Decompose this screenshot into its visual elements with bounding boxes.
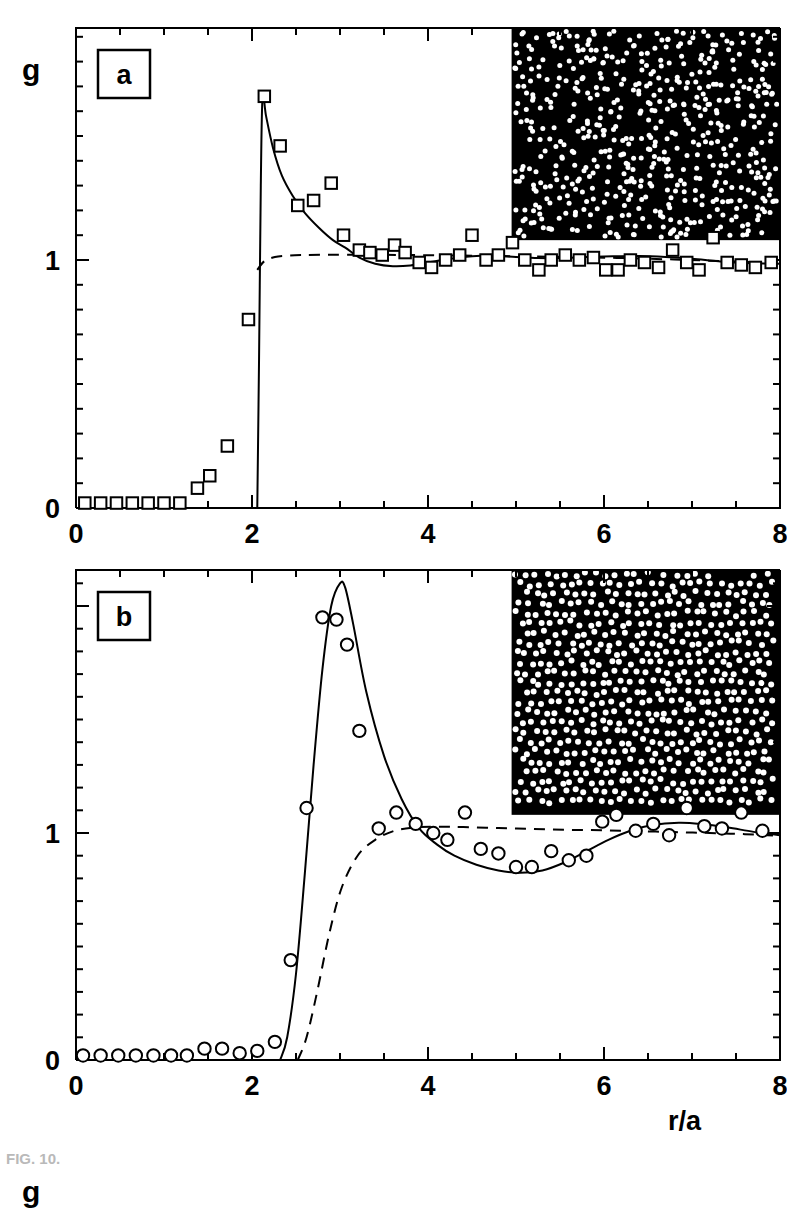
- plot-area-b: 0246801b: [0, 552, 787, 1165]
- data-point-circle: [756, 825, 768, 837]
- data-point-circle: [647, 818, 659, 830]
- data-point-circle: [681, 802, 693, 814]
- tick-labels-a: 0246801: [45, 246, 787, 549]
- data-point-circle: [596, 815, 608, 827]
- y-tick-label: 1: [45, 819, 60, 849]
- data-point-circle: [77, 1049, 89, 1061]
- data-point-square: [721, 257, 733, 269]
- data-point-square: [667, 244, 679, 256]
- data-point-circle: [198, 1042, 210, 1054]
- x-tick-label: 2: [244, 1071, 259, 1101]
- data-point-square: [545, 254, 557, 266]
- data-point-square: [325, 177, 337, 189]
- data-point-circle: [735, 806, 747, 818]
- data-point-square: [681, 257, 693, 269]
- data-point-circle: [165, 1049, 177, 1061]
- data-point-circle: [390, 806, 402, 818]
- data-point-circle: [510, 861, 522, 873]
- panel-tag-letter: a: [116, 60, 132, 90]
- y-tick-label: 0: [45, 1046, 60, 1076]
- data-point-square: [493, 249, 505, 260]
- x-tick-label: 0: [68, 1071, 83, 1101]
- data-point-square: [653, 262, 665, 274]
- data-point-square: [480, 254, 492, 266]
- data-point-circle: [181, 1049, 193, 1061]
- data-point-circle: [251, 1045, 263, 1057]
- data-point-square: [192, 482, 204, 494]
- data-point-circle: [269, 1036, 281, 1048]
- data-point-circle: [316, 611, 328, 623]
- data-point-circle: [563, 854, 575, 866]
- data-point-square: [292, 200, 304, 212]
- data-point-circle: [716, 822, 728, 834]
- data-point-square: [588, 252, 600, 264]
- data-point-circle: [441, 834, 453, 846]
- data-point-square: [338, 229, 350, 241]
- data-point-square: [533, 264, 545, 276]
- data-point-circle: [373, 822, 385, 834]
- data-point-square: [259, 91, 271, 103]
- x-tick-label: 0: [68, 519, 83, 549]
- data-point-square: [574, 254, 586, 266]
- data-point-square: [79, 497, 91, 509]
- data-point-circle: [285, 954, 297, 966]
- data-point-square: [376, 249, 388, 260]
- reference-curve-b: [298, 827, 780, 1060]
- data-point-square: [274, 140, 286, 152]
- data-point-square: [454, 249, 466, 260]
- data-point-square: [142, 497, 154, 509]
- panel-tag-a: a: [98, 50, 150, 98]
- data-point-circle: [663, 829, 675, 841]
- data-point-square: [158, 497, 170, 509]
- data-point-square: [707, 232, 719, 244]
- inset-particle-field-a: [512, 28, 780, 240]
- data-point-circle: [330, 613, 342, 625]
- panel-a: g 0246801a: [0, 0, 787, 560]
- data-point-square: [625, 254, 637, 266]
- data-point-square: [693, 264, 705, 276]
- data-point-circle: [629, 825, 641, 837]
- data-point-circle: [94, 1049, 106, 1061]
- data-point-circle: [409, 818, 421, 830]
- x-tick-label: 4: [420, 1071, 435, 1101]
- x-tick-label: 4: [420, 519, 435, 549]
- data-point-square: [765, 257, 777, 269]
- data-point-square: [95, 497, 107, 509]
- data-point-circle: [427, 827, 439, 839]
- data-point-square: [127, 497, 139, 509]
- data-point-square: [243, 314, 255, 326]
- data-point-square: [560, 249, 572, 260]
- y-tick-label: 1: [45, 246, 60, 276]
- panel-tag-b: b: [98, 592, 150, 640]
- data-point-circle: [698, 820, 710, 832]
- data-point-square: [204, 470, 216, 482]
- data-point-square: [111, 497, 123, 509]
- data-point-circle: [610, 809, 622, 821]
- data-point-circle: [459, 806, 471, 818]
- data-point-square: [612, 264, 624, 276]
- y-axis-label-b: g: [22, 1177, 40, 1207]
- data-point-circle: [130, 1049, 142, 1061]
- data-point-circle: [526, 861, 538, 873]
- panel-b: g 0246801b: [0, 552, 787, 1165]
- data-point-circle: [112, 1049, 124, 1061]
- data-point-square: [600, 264, 612, 276]
- data-point-circle: [545, 845, 557, 857]
- data-point-square: [466, 229, 478, 241]
- data-point-square: [364, 247, 376, 259]
- data-point-square: [174, 497, 186, 509]
- data-point-square: [399, 247, 411, 259]
- inset-particle-field-b: [512, 569, 780, 815]
- x-axis-label: r/a: [668, 1108, 701, 1135]
- data-point-circle: [475, 843, 487, 855]
- data-point-circle: [341, 638, 353, 650]
- panel-tag-letter: b: [116, 602, 133, 632]
- x-tick-label: 6: [596, 1071, 611, 1101]
- plot-area-a: 0246801a: [0, 0, 787, 560]
- x-tick-label: 8: [772, 519, 787, 549]
- data-point-square: [413, 257, 425, 269]
- data-point-square: [440, 254, 452, 266]
- data-point-square: [222, 440, 234, 452]
- data-point-circle: [233, 1047, 245, 1059]
